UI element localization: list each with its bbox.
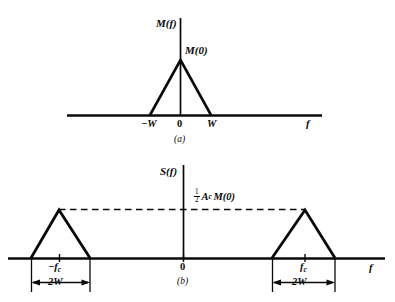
panel-a-graphic [67, 18, 322, 116]
neg-fc-symbol: −f [48, 261, 58, 272]
panel-b-tick-label-zero: 0 [180, 262, 185, 273]
panel-a-caption: (a) [174, 135, 185, 145]
panel-b-caption: (b) [177, 277, 188, 287]
panel-a-x-axis-label: f [306, 118, 310, 129]
panel-a-tick-label-neg-w: −W [141, 119, 157, 130]
carrier-subscript: c [209, 193, 212, 201]
panel-b-graphic [8, 165, 385, 292]
one-half-fraction: 1 2 [194, 189, 200, 205]
message-dc-value: M(0) [213, 192, 235, 203]
fraction-denominator: 2 [194, 196, 200, 205]
panel-b-x-axis-label: f [369, 262, 373, 273]
panel-a-tick-label-pos-w: W [207, 119, 216, 130]
panel-b-amplitude-label: 1 2 AcM(0) [194, 189, 235, 205]
fraction-numerator: 1 [194, 189, 200, 197]
bandwidth-left-label: 2W [48, 277, 63, 288]
panel-a-peak-label: M(0) [185, 45, 208, 56]
figure-container: M(f) M(0) −W 0 W f (a) S(f) 1 2 AcM(0) −… [0, 0, 395, 302]
neg-fc-subscript: c [58, 265, 61, 274]
carrier-amplitude-symbol: A [202, 192, 209, 203]
panel-b-tick-label-pos-fc: fc [300, 262, 307, 273]
panel-b-y-axis-label: S(f) [160, 166, 177, 177]
bandwidth-right-label: 2W [292, 277, 307, 288]
panel-b-tick-label-neg-fc: −fc [48, 262, 61, 273]
panel-a-tick-label-zero: 0 [177, 119, 182, 130]
panel-b-right-lobe [272, 210, 335, 258]
pos-fc-subscript: c [304, 265, 307, 274]
panel-b-left-lobe [31, 210, 90, 258]
panel-a-y-axis-label: M(f) [156, 18, 177, 29]
